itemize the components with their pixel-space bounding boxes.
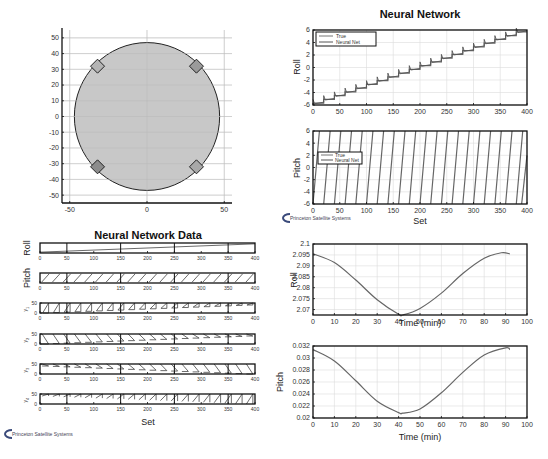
x-tick-label: 40: [395, 421, 403, 428]
y-tick-label: -40: [49, 176, 59, 183]
x-axis-label: Set: [413, 216, 427, 226]
y-tick-label: 6: [306, 127, 310, 134]
x-tick-label: 50: [64, 285, 70, 291]
y-tick-label: 2.1: [300, 240, 310, 247]
x-tick-label: 200: [143, 406, 152, 412]
x-tick-label: 150: [387, 207, 399, 214]
x-tick-label: 150: [116, 376, 125, 382]
princeton-satellite-systems-logo: Princeton Satellite Systems: [283, 214, 351, 222]
x-tick-label: 100: [90, 406, 99, 412]
subplot-3: 050100150200250300350400050y1: [22, 300, 259, 321]
x-tick-label: 350: [224, 255, 233, 261]
x-tick-label: 0: [39, 315, 42, 321]
x-tick-label: 50: [64, 315, 70, 321]
y-tick-label: 2.09: [296, 262, 310, 269]
x-tick-label: 350: [224, 376, 233, 382]
x-tick-label: 0: [39, 285, 42, 291]
y-tick-label: -6: [304, 101, 310, 108]
x-tick-label: 0: [311, 207, 315, 214]
x-tick-label: 350: [494, 108, 506, 115]
y-axis-label: Pitch: [292, 158, 302, 178]
x-tick-label: 300: [197, 376, 206, 382]
x-tick-label: 100: [521, 318, 533, 325]
x-tick-label: 400: [521, 207, 533, 214]
x-tick-label: 350: [494, 207, 506, 214]
logo-text: Princeton Satellite Systems: [12, 431, 73, 437]
x-tick-label: 80: [480, 318, 488, 325]
y-tick-label: 0.024: [292, 390, 310, 397]
y-tick-label: 0.028: [292, 366, 310, 373]
y-tick-label: -6: [304, 200, 310, 207]
x-tick-label: 90: [502, 318, 510, 325]
y-axis-label: y1: [22, 306, 30, 312]
y-tick-label: -4: [304, 188, 310, 195]
legend: TrueNeural Net: [316, 32, 376, 46]
svg-text:Neural Net: Neural Net: [335, 157, 360, 163]
x-tick-label: 300: [197, 285, 206, 291]
x-axis-label: Time (min): [399, 318, 442, 328]
x-tick-label: 300: [468, 108, 480, 115]
y-tick-label: 0: [306, 64, 310, 71]
y-tick-label: 0: [34, 401, 37, 407]
x-tick-label: 250: [441, 108, 453, 115]
x-tick-label: 0: [39, 346, 42, 352]
x-tick-label: 250: [170, 315, 179, 321]
x-tick-label: 400: [251, 406, 260, 412]
subplot-6: 050100150200250300350400050y4: [22, 391, 259, 412]
x-tick-label: 250: [170, 285, 179, 291]
y-tick-label: 2.095: [292, 251, 310, 258]
legend-neural-net: Neural Net: [336, 39, 361, 45]
x-tick-label: 400: [251, 376, 260, 382]
chart-nn-roll: Neural Network05010015020025030035040064…: [292, 8, 533, 115]
x-tick-label: 50: [64, 346, 70, 352]
x-tick-label: 150: [116, 285, 125, 291]
x-tick-label: 150: [387, 108, 399, 115]
x-tick-label: 50: [416, 421, 424, 428]
princeton-satellite-systems-logo: Princeton Satellite Systems: [5, 430, 73, 438]
y-tick-label: -20: [49, 144, 59, 151]
y-axis-label: Pitch: [22, 268, 32, 288]
y-tick-label: 2.075: [292, 295, 310, 302]
y-tick-label: 6: [306, 26, 310, 33]
x-tick-label: 300: [197, 255, 206, 261]
x-tick-label: 0: [311, 318, 315, 325]
x-tick-label: 350: [224, 285, 233, 291]
x-tick-label: 400: [251, 315, 260, 321]
x-tick-label: 10: [331, 421, 339, 428]
x-tick-label: 250: [170, 255, 179, 261]
y-tick-label: 4: [306, 140, 310, 147]
y-axis-label: y3: [22, 367, 30, 373]
y-axis-label: Roll: [289, 272, 299, 288]
x-tick-label: 150: [116, 255, 125, 261]
y-tick-label: 2: [306, 152, 310, 159]
x-tick-label: 0: [311, 421, 315, 428]
x-axis-label: Time (min): [399, 432, 442, 442]
y-tick-label: 50: [31, 300, 37, 306]
y-tick-label: -2: [304, 76, 310, 83]
x-axis-label: Set: [141, 417, 155, 427]
y-tick-label: 50: [31, 331, 37, 337]
y-axis-label: y2: [22, 337, 30, 343]
x-tick-label: 350: [224, 346, 233, 352]
chart-nn-pitch: 0501001502002503003504006420-2-4-6PitchS…: [292, 127, 533, 226]
x-tick-label: 0: [39, 376, 42, 382]
x-tick-label: -50: [65, 206, 75, 213]
logo-text: Princeton Satellite Systems: [290, 215, 351, 221]
y-tick-label: 4: [306, 39, 310, 46]
x-tick-label: 300: [197, 406, 206, 412]
x-tick-label: 30: [373, 421, 381, 428]
y-tick-label: 2: [306, 51, 310, 58]
chart-nn-data: Neural Network Data050100150200250300350…: [22, 229, 259, 427]
x-tick-label: 70: [459, 318, 467, 325]
y-axis-label: y4: [22, 397, 30, 403]
x-tick-label: 300: [197, 315, 206, 321]
y-tick-label: 0: [34, 371, 37, 377]
y-tick-label: 50: [31, 361, 37, 367]
x-tick-label: 50: [336, 207, 344, 214]
y-tick-label: -2: [304, 176, 310, 183]
x-tick-label: 50: [64, 376, 70, 382]
x-tick-label: 400: [251, 285, 260, 291]
y-tick-label: 40: [51, 50, 59, 57]
x-tick-label: 350: [224, 406, 233, 412]
y-tick-label: 0.03: [296, 354, 310, 361]
